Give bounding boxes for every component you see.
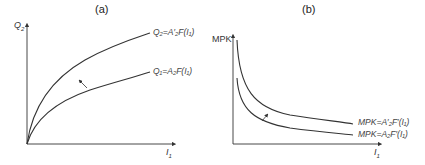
panel-a-upper-curve: [27, 33, 150, 144]
panel-b-title: (b): [302, 3, 315, 15]
panel-b-x-axis-sub: 1: [377, 153, 380, 159]
panel-a-y-axis-label: Q2: [14, 20, 24, 32]
panel-b-shift-arrow: [262, 115, 267, 121]
panel-b-axes: [233, 36, 380, 144]
panel-a-upper-curve-label: Q₂=A′₂F(I₁): [153, 27, 194, 37]
panel-a-shift-arrow: [80, 81, 87, 88]
panel-a-lower-curve: [27, 72, 150, 144]
panel-a-y-axis-text: Q: [14, 20, 21, 30]
panel-b-lower-curve-label: MPK=A₂F′(I₁): [358, 129, 408, 139]
panel-a-lower-curve-label: Q₁=A₂F(I₁): [153, 66, 192, 76]
panel-a-x-axis-label: I1: [166, 147, 172, 159]
diagram-canvas: [0, 0, 425, 165]
panel-a-x-axis-sub: 1: [169, 153, 172, 159]
panel-b-lower-curve: [237, 78, 353, 135]
panel-a-title: (a): [95, 3, 108, 15]
panel-a-y-axis-sub: 2: [21, 26, 24, 32]
panel-b-upper-curve-label: MPK=A′₂F′(I₁): [358, 117, 409, 127]
panel-b-y-axis-label: MPK: [212, 34, 232, 44]
panel-b-upper-curve: [237, 40, 353, 124]
panel-a-axes: [27, 25, 174, 144]
panel-b-x-axis-label: I1: [374, 147, 380, 159]
